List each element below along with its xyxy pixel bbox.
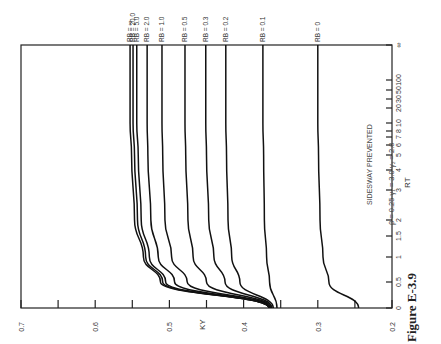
annotation-line2: β = 0.25 γ₁ = 3.0 γ₂ = 2.0 [387,142,396,225]
svg-text:0.7: 0.7 [18,322,25,332]
svg-text:0.4: 0.4 [241,322,248,332]
svg-text:0.3: 0.3 [315,322,322,332]
curve-7 [137,45,269,308]
svg-text:6: 6 [395,143,402,147]
svg-text:RT: RT [403,177,412,188]
svg-text:0.6: 0.6 [92,322,99,332]
curve-label: RB = 0.3 [202,16,209,42]
curve-8 [133,45,269,308]
curve-4 [185,45,271,308]
curve-label: RB = 2.0 [143,16,150,42]
curve-label: RB = 1.0 [158,16,165,42]
svg-text:0.5: 0.5 [166,322,173,332]
curve-label: RB = ∞ [126,21,133,42]
figure-caption: Figure E-3.9 [404,252,420,342]
labels: 0.20.30.40.50.60.700.511.523456781020305… [18,13,412,332]
curve-3 [206,45,272,308]
svg-text:8: 8 [395,129,402,133]
svg-text:7: 7 [395,135,402,139]
svg-text:0.2: 0.2 [389,322,396,332]
svg-text:50: 50 [395,86,402,94]
svg-text:2: 2 [395,218,402,222]
svg-text:30: 30 [395,95,402,103]
svg-text:0: 0 [395,306,402,310]
svg-text:3: 3 [395,188,402,192]
curve-0 [318,45,359,308]
svg-text:100: 100 [395,74,402,86]
svg-text:1.5: 1.5 [395,231,402,241]
curve-label: RB = 0.1 [259,16,266,42]
curve-label: RB = 0.2 [222,16,229,42]
curve-label: RB = 0.5 [181,16,188,42]
annotation-line1: SIDESWAY PREVENTED [366,124,373,205]
svg-text:10: 10 [395,119,402,127]
curve-label: RB = 0 [314,22,321,42]
svg-text:5: 5 [395,153,402,157]
curve-1 [263,45,277,308]
svg-text:1: 1 [395,255,402,259]
svg-text:∞: ∞ [395,43,402,48]
svg-text:KY: KY [198,319,207,330]
curve-2 [226,45,273,308]
kyrt-chart: 0.20.30.40.50.60.700.511.523456781020305… [0,0,441,344]
curves [130,45,359,308]
curve-5 [162,45,270,308]
svg-text:0.5: 0.5 [395,277,402,287]
svg-text:4: 4 [395,168,402,172]
svg-text:20: 20 [395,104,402,112]
curve-6 [147,45,269,308]
